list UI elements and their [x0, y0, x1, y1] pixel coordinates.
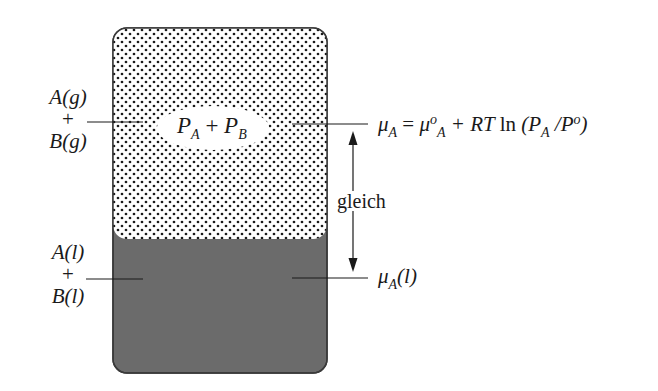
ln-function: ln [500, 112, 516, 136]
equals-sign: = [397, 112, 419, 136]
liquid-phase-marker: (l) [397, 264, 417, 288]
mu-subscript: A [389, 125, 398, 140]
pressure-symbol-b: P [224, 113, 238, 138]
gas-species-b: B(g) [33, 130, 103, 152]
mu-standard-subscript: A [437, 125, 446, 140]
gas-chemical-potential-equation: μA = μoA + RT ln (PA /Po) [378, 113, 588, 140]
standard-superscript: o [430, 112, 437, 127]
total-pressure-label: PA + PB [177, 114, 247, 142]
mu-symbol: μ [378, 112, 389, 136]
liquid-mu-symbol: μ [378, 264, 389, 288]
liquid-species-label: A(l) + B(l) [33, 241, 103, 307]
container [113, 28, 327, 373]
pressure-plus: + [205, 113, 218, 138]
liquid-species-a: A(l) [33, 241, 103, 263]
liquid-mu-subscript: A [389, 277, 398, 292]
pressure-subscript-b: B [238, 127, 247, 142]
mu-standard-symbol: μ [419, 112, 430, 136]
rt-term: + RT [446, 112, 500, 136]
partial-pressure-open: (P [516, 112, 541, 136]
close-paren: ) [581, 112, 588, 136]
equality-label: gleich [335, 191, 388, 211]
partial-pressure-subscript: A [541, 125, 550, 140]
gas-species-label: A(g) + B(g) [33, 86, 103, 152]
liquid-species-b: B(l) [33, 285, 103, 307]
pressure-symbol-a: P [177, 113, 191, 138]
diagram-canvas [0, 0, 658, 391]
liquid-species-plus: + [33, 263, 103, 285]
arrow-up-head [349, 131, 358, 145]
pressure-subscript-a: A [191, 127, 200, 142]
gas-species-a: A(g) [33, 86, 103, 108]
arrow-down-head [349, 258, 358, 272]
gas-species-plus: + [33, 108, 103, 130]
standard-pressure-superscript: o [574, 112, 581, 127]
standard-pressure: /P [550, 112, 574, 136]
liquid-chemical-potential: μA(l) [378, 266, 417, 292]
